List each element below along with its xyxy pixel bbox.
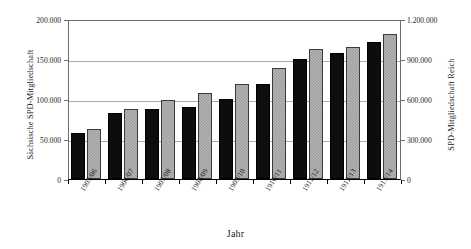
x-axis-tick <box>253 180 254 184</box>
bar-group <box>365 21 402 179</box>
bar-group <box>328 21 365 179</box>
y-axis-right-tick <box>401 60 405 61</box>
y-axis-left-tick <box>64 60 68 61</box>
bar-chart-figure: Sächsische SPD-Mitgliedschaft SPD-Mitgli… <box>0 0 471 249</box>
y-axis-right-tick <box>401 20 405 21</box>
y-axis-right-tick-label: 900.000 <box>407 56 467 65</box>
bar-saxony-membership <box>367 42 381 179</box>
plot-area <box>68 20 401 180</box>
bar-group <box>69 21 106 179</box>
bar-reich-membership <box>309 49 323 179</box>
y-axis-left-tick-label: 50.000 <box>1 136 61 145</box>
bar-saxony-membership <box>219 99 233 179</box>
bar-saxony-membership <box>182 107 196 179</box>
y-axis-left-title: Sächsische SPD-Mitgliedschaft <box>26 20 35 190</box>
x-axis-tick <box>401 180 402 184</box>
y-axis-right-title: SPD-Mitgliedschaft Reich <box>447 20 456 190</box>
y-axis-right-tick-label: 300.000 <box>407 136 467 145</box>
y-axis-left-tick <box>64 100 68 101</box>
bar-group <box>291 21 328 179</box>
bar-saxony-membership <box>71 133 85 179</box>
bar-reich-membership <box>235 84 249 179</box>
y-axis-left-tick-label: 100.000 <box>1 96 61 105</box>
x-axis-tick <box>327 180 328 184</box>
x-axis-tick <box>179 180 180 184</box>
bar-group <box>217 21 254 179</box>
y-axis-right-tick <box>401 100 405 101</box>
x-axis-tick <box>364 180 365 184</box>
x-axis-tick <box>216 180 217 184</box>
y-axis-left-tick-label: 0 <box>1 176 61 185</box>
y-axis-right-tick-label: 600.000 <box>407 96 467 105</box>
bar-saxony-membership <box>145 109 159 179</box>
bar-group <box>254 21 291 179</box>
x-axis-tick <box>105 180 106 184</box>
bar-reich-membership <box>383 34 397 179</box>
y-axis-left-tick <box>64 140 68 141</box>
y-axis-left-tick <box>64 20 68 21</box>
x-axis-tick <box>142 180 143 184</box>
bar-saxony-membership <box>108 113 122 179</box>
y-axis-right-tick-label: 1.200.000 <box>407 16 467 25</box>
x-axis-tick <box>68 180 69 184</box>
bar-group <box>180 21 217 179</box>
bar-saxony-membership <box>256 84 270 179</box>
x-axis-title: Jahr <box>0 228 471 239</box>
x-axis-tick <box>290 180 291 184</box>
bar-saxony-membership <box>330 53 344 179</box>
y-axis-left-tick-label: 150.000 <box>1 56 61 65</box>
bar-reich-membership <box>198 93 212 179</box>
y-axis-right-tick <box>401 140 405 141</box>
bar-reich-membership <box>161 100 175 179</box>
y-axis-right-tick-label: 0 <box>407 176 467 185</box>
bar-saxony-membership <box>293 59 307 179</box>
y-axis-left-tick-label: 200.000 <box>1 16 61 25</box>
bar-group <box>143 21 180 179</box>
bar-group <box>106 21 143 179</box>
bar-reich-membership <box>272 68 286 179</box>
bar-reich-membership <box>346 47 360 179</box>
